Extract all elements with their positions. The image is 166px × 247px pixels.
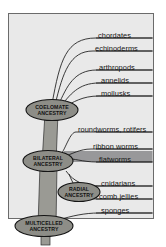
- taxon-label-roundworms-rotifers: roundworms, rotifers: [78, 125, 147, 134]
- ancestry-node-radial-ancestry: RADIALANCESTRY: [58, 183, 100, 202]
- ancestry-node-coelomate-ancestry: COELOMATEANCESTRY: [26, 100, 78, 121]
- ancestry-label-line2: ANCESTRY: [64, 192, 94, 198]
- ancestry-label-line2: ANCESTRY: [33, 161, 63, 167]
- ancestry-label-line2: ANCESTRY: [37, 110, 67, 116]
- taxon-label-sponges: sponges: [101, 206, 130, 215]
- taxon-label-echinoderms: echinoderms: [95, 44, 138, 53]
- trunk-base-stem: [41, 236, 50, 245]
- taxon-label-ribbon-worms: ribbon worms: [93, 142, 138, 151]
- tree-canvas: chordatesechinodermsarthropodsannelidsmo…: [0, 0, 166, 247]
- taxon-label-mollusks: mollusks: [101, 89, 130, 98]
- taxon-label-cnidarians: cnidarians: [101, 179, 135, 188]
- taxon-label-chordates: chordates: [98, 31, 131, 40]
- ancestry-label-line2: ANCESTRY: [29, 226, 59, 232]
- ancestry-node-bilateral-ancestry: BILATERALANCESTRY: [23, 151, 73, 172]
- taxon-label-arthropods: arthropods: [99, 63, 135, 72]
- ancestry-node-multicelled-ancestry: MULTICELLEDANCESTRY: [15, 216, 73, 237]
- taxon-label-comb-jellies: comb jellies: [99, 192, 138, 201]
- taxon-label-flatworms: flatworms: [99, 155, 131, 164]
- phylogenetic-tree-figure: chordatesechinodermsarthropodsannelidsmo…: [0, 0, 166, 247]
- taxon-label-annelids: annelids: [101, 76, 129, 85]
